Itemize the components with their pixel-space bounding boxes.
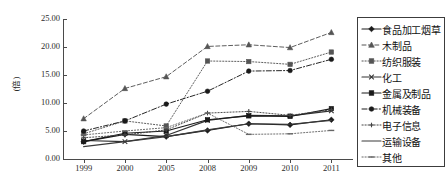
x-tick-label: 2011: [311, 163, 351, 173]
data-point-square: [205, 118, 209, 122]
data-point-square: [247, 59, 251, 63]
x-tick-label: 1999: [64, 163, 104, 173]
data-point-square: [247, 114, 251, 118]
legend-label: 纺织服装: [382, 54, 421, 69]
legend-item[interactable]: 纺织服装: [360, 53, 442, 69]
legend: 食品加工烟草木制品纺织服装化工金属及制品机械装备电子信息运输设备其他: [357, 17, 445, 167]
data-point-circle: [288, 68, 293, 73]
y-axis-title: (倍): [9, 67, 21, 101]
data-point-square: [205, 59, 209, 63]
data-point-circle: [205, 89, 210, 94]
data-point-triangle: [164, 74, 169, 79]
legend-sample-icon: [361, 70, 382, 84]
y-tick-mark: [63, 159, 67, 160]
legend-label: 金属及制品: [382, 86, 431, 101]
legend-item[interactable]: 电子信息: [360, 117, 442, 133]
legend-sample-icon: [361, 86, 382, 100]
data-point-square: [81, 139, 85, 143]
x-tick-label: 2010: [270, 163, 310, 173]
data-point-diamond: [369, 26, 375, 32]
data-point-square: [369, 91, 374, 96]
legend-sample-icon: [361, 38, 382, 52]
data-point-circle: [81, 129, 86, 134]
legend-item[interactable]: 运输设备: [360, 133, 442, 149]
legend-sample-icon: [361, 54, 382, 68]
data-point-circle: [123, 119, 128, 124]
series-line: [81, 30, 334, 121]
data-point-square: [329, 50, 333, 54]
legend-label: 机械装备: [382, 102, 421, 117]
data-point-triangle: [329, 30, 334, 35]
data-point-square: [288, 62, 292, 66]
y-tick-label: 10.00: [41, 98, 60, 107]
legend-sample-icon: [361, 150, 382, 164]
data-point-circle: [164, 102, 169, 107]
legend-label: 化工: [382, 70, 402, 85]
y-tick-label: 5.00: [45, 126, 60, 135]
legend-label: 电子信息: [382, 118, 421, 133]
x-tick-label: 2009: [229, 163, 269, 173]
chart-container: (倍) 0.005.0010.0015.0020.0025.00 1999200…: [0, 0, 447, 193]
plot-area: [63, 19, 352, 159]
y-tick-label: 20.00: [41, 42, 60, 51]
legend-item[interactable]: 机械装备: [360, 101, 442, 117]
legend-sample-icon: [361, 118, 382, 132]
legend-item[interactable]: 木制品: [360, 37, 442, 53]
y-tick-label: 25.00: [41, 14, 60, 23]
y-tick-label: 15.00: [41, 70, 60, 79]
legend-sample-icon: [361, 134, 382, 148]
data-point-circle: [329, 57, 334, 62]
legend-item[interactable]: 食品加工烟草: [360, 21, 442, 37]
data-point-triangle: [81, 116, 86, 121]
data-point-circle: [369, 107, 374, 112]
data-point-square: [369, 59, 374, 64]
legend-label: 其他: [382, 150, 402, 165]
legend-item[interactable]: 化工: [360, 69, 442, 85]
x-tick-label: 2008: [188, 163, 228, 173]
legend-item[interactable]: 金属及制品: [360, 85, 442, 101]
legend-label: 木制品: [382, 38, 411, 53]
data-point-triangle: [246, 42, 251, 47]
legend-label: 食品加工烟草: [382, 22, 441, 37]
legend-sample-icon: [361, 22, 382, 36]
data-point-circle: [246, 69, 251, 74]
y-tick-label: 0.00: [45, 154, 60, 163]
x-tick-label: 2000: [105, 163, 145, 173]
legend-item[interactable]: 其他: [360, 149, 442, 165]
x-tick-label: 2005: [146, 163, 186, 173]
legend-label: 运输设备: [382, 134, 421, 149]
data-point-plus: [369, 123, 374, 128]
legend-sample-icon: [361, 102, 382, 116]
